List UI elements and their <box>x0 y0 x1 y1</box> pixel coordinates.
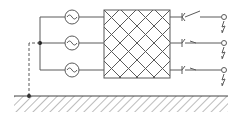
ac-source-3 <box>65 63 104 77</box>
circuit-diagram: Three-phase sources connected through a … <box>0 0 239 117</box>
terminal-2 <box>222 41 227 46</box>
ground-earth <box>14 96 228 112</box>
star-bus <box>38 17 65 70</box>
terminal-3 <box>222 68 227 73</box>
switch-1-open <box>170 11 221 21</box>
fault-lightning-icon-1 <box>221 21 225 33</box>
fault-lightning-icon-3 <box>221 74 225 86</box>
neutral-ground-connection <box>27 43 40 98</box>
ac-source-2 <box>65 36 104 50</box>
ac-source-1 <box>65 10 104 24</box>
fault-lightning-icon-2 <box>221 47 225 59</box>
switch-3-closed <box>170 66 221 74</box>
switch-2-closed <box>170 39 221 47</box>
terminal-1 <box>222 15 227 20</box>
network-box <box>102 10 172 78</box>
